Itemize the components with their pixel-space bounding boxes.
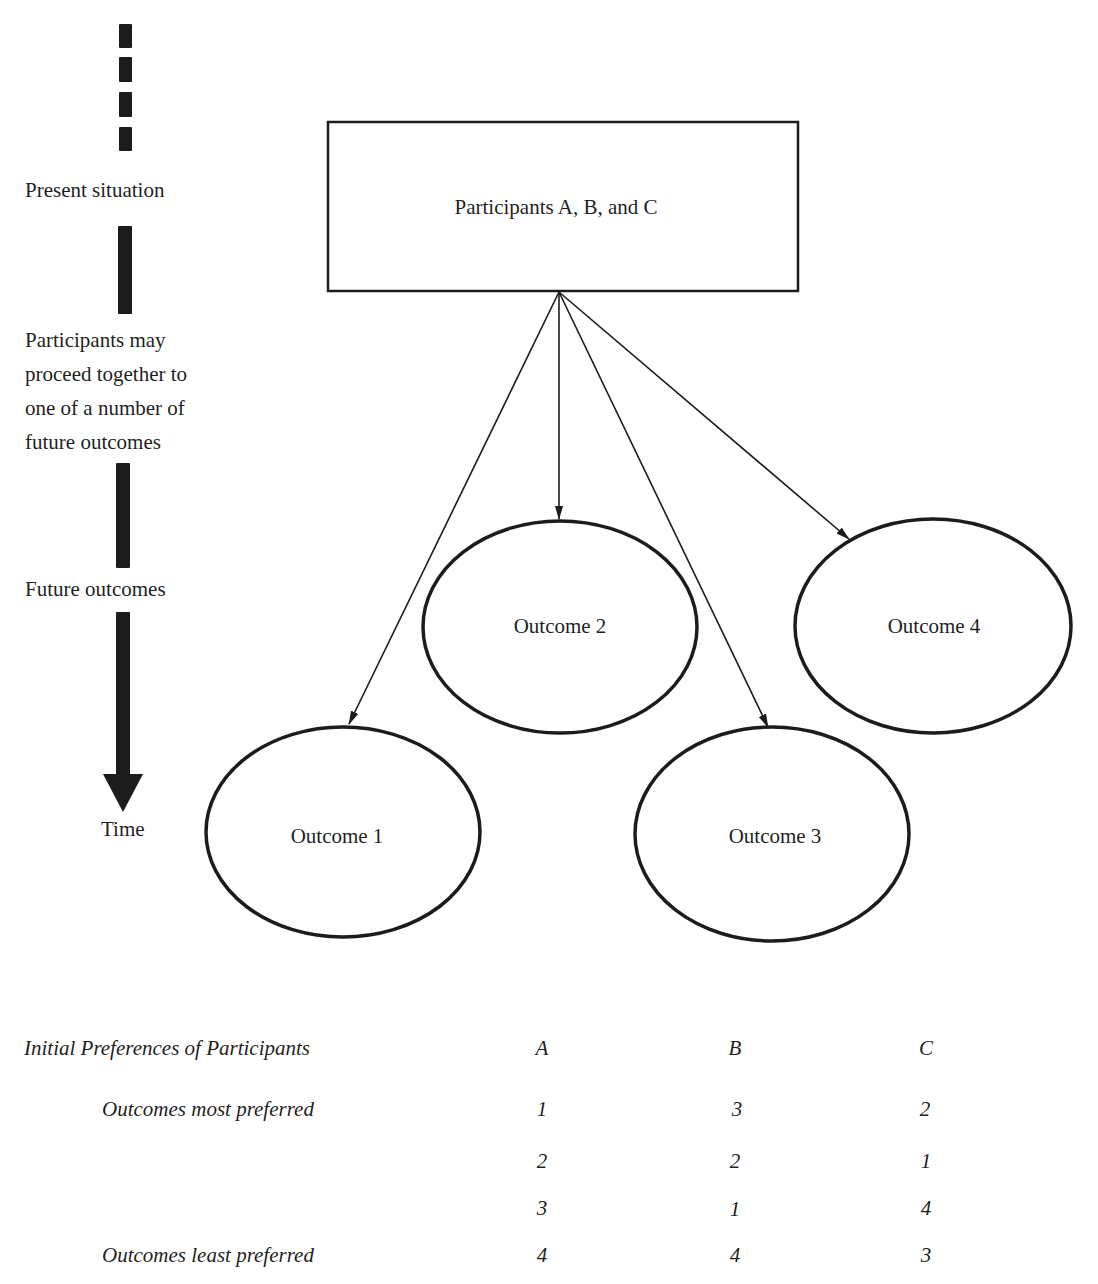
outcome-1-label: Outcome 1	[291, 824, 384, 849]
outcome-2-label: Outcome 2	[514, 614, 607, 639]
table-cell: 1	[921, 1149, 932, 1174]
column-header-b: B	[729, 1036, 742, 1061]
preferences-title: Initial Preferences of Participants	[24, 1036, 310, 1061]
table-cell: 1	[730, 1197, 741, 1222]
table-cell: 4	[537, 1243, 548, 1268]
outcome-4-label: Outcome 4	[888, 614, 981, 639]
column-header-a: A	[536, 1036, 549, 1061]
row-label-most-preferred: Outcomes most preferred	[102, 1097, 314, 1122]
column-header-c: C	[919, 1036, 933, 1061]
table-cell: 3	[921, 1243, 932, 1268]
outcome-diagram	[0, 0, 1098, 960]
edge-to-outcome-1	[349, 292, 559, 724]
outcome-3-label: Outcome 3	[729, 824, 822, 849]
table-cell: 4	[730, 1243, 741, 1268]
table-cell: 3	[537, 1196, 548, 1221]
table-cell: 2	[537, 1149, 548, 1174]
table-cell: 2	[730, 1149, 741, 1174]
participants-box-label: Participants A, B, and C	[455, 195, 658, 220]
row-label-least-preferred: Outcomes least preferred	[102, 1243, 314, 1268]
edges	[349, 292, 849, 727]
table-cell: 3	[732, 1097, 743, 1122]
table-cell: 1	[537, 1097, 548, 1122]
edge-to-outcome-4	[559, 292, 849, 539]
table-cell: 2	[920, 1097, 931, 1122]
table-cell: 4	[921, 1196, 932, 1221]
edge-to-outcome-3	[559, 292, 768, 727]
